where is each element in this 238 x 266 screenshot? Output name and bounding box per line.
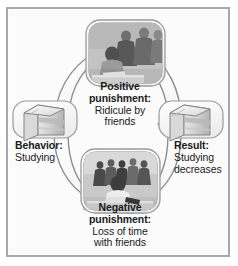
result-heading: Result: (174, 140, 228, 152)
positive-punishment-heading-line1: Positive (74, 81, 166, 93)
positive-punishment-body-line2: friends (74, 116, 166, 128)
positive-punishment-image (86, 20, 166, 86)
figure-canvas: Positive punishment: Ridicule by friends… (8, 9, 228, 255)
label-positive-punishment: Positive punishment: Ridicule by friends (74, 81, 166, 128)
result-image (159, 101, 223, 141)
negative-punishment-heading-line1: Negative (70, 202, 170, 214)
label-negative-punishment: Negative punishment: Loss of time with f… (70, 202, 170, 249)
result-body-line1: Studying (174, 152, 228, 164)
figure-root: Positive punishment: Ridicule by friends… (0, 0, 238, 266)
positive-punishment-heading-line2: punishment: (74, 93, 166, 105)
result-body-line2: decreases (174, 164, 228, 176)
behavior-image (13, 101, 77, 141)
negative-punishment-heading-line2: punishment: (70, 214, 170, 226)
label-result: Result: Studying decreases (174, 140, 228, 175)
label-behavior: Behavior: Studying (15, 140, 77, 164)
behavior-body: Studying (15, 152, 77, 164)
behavior-heading: Behavior: (15, 140, 77, 152)
negative-punishment-body-line2: with friends (70, 237, 170, 249)
figure-frame: Positive punishment: Ridicule by friends… (6, 7, 230, 257)
